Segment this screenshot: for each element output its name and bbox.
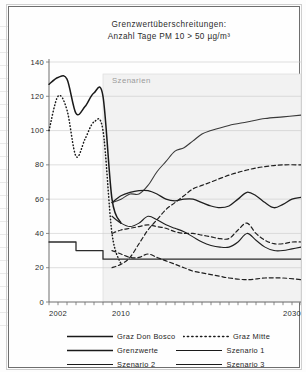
legend-swatch-3	[176, 346, 222, 355]
legend-swatch-5	[176, 360, 222, 369]
legend-swatch-1	[183, 332, 229, 341]
legend-row: Szenario 2 Szenario 3	[25, 357, 289, 371]
xtick-label: 2002	[49, 309, 67, 318]
legend-item-graz-mitte: Graz Mitte	[173, 332, 289, 341]
legend-row: Grenzwerte Szenario 1	[25, 343, 289, 357]
ytick-label: 140	[30, 58, 44, 67]
chart-title-line2: Anzahl Tage PM 10 > 50 µg/m³	[49, 31, 289, 43]
ytick-label: 80	[35, 160, 44, 169]
legend-label-5: Szenario 3	[226, 360, 264, 369]
legend-item-szenario-3: Szenario 3	[166, 360, 289, 369]
chart-page: Grenzwertüberschreitungen: Anzahl Tage P…	[0, 0, 306, 372]
ytick-label: 20	[35, 263, 44, 272]
legend-row: Graz Don Bosco Graz Mitte	[25, 329, 289, 343]
legend-label-0: Graz Don Bosco	[117, 332, 175, 341]
ytick-label: 0	[39, 298, 44, 307]
chart-title: Grenzwertüberschreitungen: Anzahl Tage P…	[49, 19, 289, 43]
figure-frame: Grenzwertüberschreitungen: Anzahl Tage P…	[8, 6, 300, 368]
legend-label-3: Szenario 1	[226, 346, 264, 355]
ytick-label: 100	[30, 126, 44, 135]
scenario-region-label: Szenarien	[112, 76, 151, 85]
legend-item-grenzwerte: Grenzwerte	[25, 346, 166, 355]
legend-label-2: Grenzwerte	[117, 346, 158, 355]
xtick-label: 2030	[283, 309, 301, 318]
chart-title-line1: Grenzwertüberschreitungen:	[49, 19, 289, 31]
legend-item-graz-don-bosco: Graz Don Bosco	[25, 332, 173, 341]
scan-edge-artifact	[0, 26, 8, 326]
ytick-label: 40	[35, 229, 44, 238]
legend-swatch-4	[67, 360, 113, 369]
ytick-label: 120	[30, 92, 44, 101]
legend-swatch-2	[67, 346, 113, 355]
legend-label-1: Graz Mitte	[233, 332, 270, 341]
chart-svg: 020406080100120140200220102030Szenarien	[23, 53, 306, 321]
ytick-label: 60	[35, 195, 44, 204]
legend-item-szenario-1: Szenario 1	[166, 346, 289, 355]
plot-area: 020406080100120140200220102030Szenarien	[23, 53, 306, 321]
legend-item-szenario-2: Szenario 2	[25, 360, 166, 369]
legend-swatch-0	[67, 332, 113, 341]
xtick-label: 2010	[112, 309, 130, 318]
legend-label-4: Szenario 2	[117, 360, 155, 369]
chart-legend: Graz Don Bosco Graz Mitte Grenzwerte Sze…	[25, 329, 289, 372]
